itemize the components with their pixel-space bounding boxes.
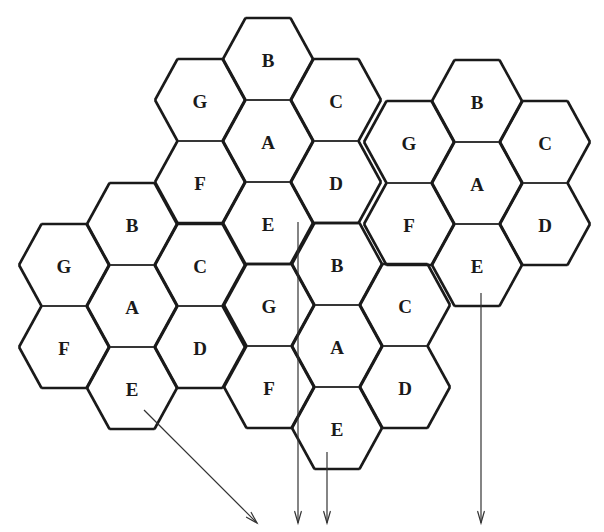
cluster-border-bottom <box>360 305 383 346</box>
arrow-shaft <box>144 410 257 523</box>
cluster-border-bottom <box>360 387 383 428</box>
cluster-border-bottom <box>360 223 383 264</box>
cluster-border-left <box>155 265 178 306</box>
cluster-border-right <box>432 224 455 265</box>
cluster-border-top <box>291 59 314 100</box>
cluster-border-top <box>359 100 382 141</box>
cluster-border-right <box>364 101 387 142</box>
cell-label-left-e: E <box>126 379 139 400</box>
cell-label-bottom-a: A <box>330 337 344 358</box>
cluster-border-bottom <box>428 387 451 428</box>
cell-label-right-e: E <box>471 256 484 277</box>
cluster-border-top <box>359 141 382 182</box>
cluster-border-bottom <box>360 428 383 469</box>
cell-label-left-b: B <box>126 215 139 236</box>
cluster-border-right <box>432 101 455 142</box>
cell-label-top-g: G <box>193 91 208 112</box>
cell-label-right-a: A <box>470 174 484 195</box>
cluster-border-right <box>568 101 591 142</box>
cell-label-left-f: F <box>58 338 70 359</box>
cluster-border-right <box>568 183 591 224</box>
cell-label-top-d: D <box>329 173 343 194</box>
cell-label-right-g: G <box>402 133 417 154</box>
cluster-border-left <box>87 347 110 388</box>
cluster-border-bottom <box>292 223 315 264</box>
cluster-border-bottom <box>360 264 383 305</box>
cluster-border-left <box>87 183 110 224</box>
cluster-border-top <box>359 182 382 223</box>
diagram-canvas: ABCDEFGABCDEFGABCDEFGABCDEFG <box>0 0 604 532</box>
cluster-border-right <box>432 265 455 306</box>
cluster-border-bottom <box>428 346 451 387</box>
cluster-border-top <box>223 18 246 59</box>
cluster-border-top <box>291 182 314 223</box>
cell-label-bottom-e: E <box>331 419 344 440</box>
cell-label-top-b: B <box>262 50 275 71</box>
cell-label-left-d: D <box>193 338 207 359</box>
cell-label-bottom-c: C <box>398 296 412 317</box>
cluster-border-right <box>364 183 387 224</box>
cluster-border-right <box>500 60 523 101</box>
cluster-border-left <box>19 265 42 306</box>
cluster-border-bottom <box>428 305 451 346</box>
cluster-border-left <box>155 306 178 347</box>
cluster-border-bottom <box>292 387 315 428</box>
cluster-border-left <box>19 306 42 347</box>
cluster-border-right <box>500 224 523 265</box>
cluster-border-top <box>155 59 178 100</box>
arrow-top-e <box>295 222 302 523</box>
cell-label-bottom-f: F <box>263 378 275 399</box>
cluster-border-right <box>364 224 387 265</box>
cluster-border-top <box>223 182 246 223</box>
cluster-border-top <box>223 59 246 100</box>
cluster-border-right <box>568 142 591 183</box>
cluster-border-left <box>19 224 42 265</box>
cluster-border-bottom <box>428 264 451 305</box>
cell-label-top-c: C <box>329 91 343 112</box>
hex-cluster-diagram: ABCDEFGABCDEFGABCDEFGABCDEFG <box>0 0 604 532</box>
cluster-border-left <box>19 347 42 388</box>
cluster-border-top <box>223 141 246 182</box>
cluster-border-right <box>432 183 455 224</box>
cluster-border-top <box>291 223 314 264</box>
cluster-border-right <box>500 101 523 142</box>
cluster-border-left <box>155 388 178 429</box>
cluster-border-left <box>87 388 110 429</box>
cluster-border-left <box>155 183 178 224</box>
cell-label-left-a: A <box>125 297 139 318</box>
cell-label-top-f: F <box>194 173 206 194</box>
cluster-border-bottom <box>292 428 315 469</box>
cluster-border-right <box>432 60 455 101</box>
cluster-border-top <box>291 18 314 59</box>
cluster-border-bottom <box>224 387 247 428</box>
cluster-border-bottom <box>224 264 247 305</box>
cluster-border-right <box>364 142 387 183</box>
cell-label-top-e: E <box>262 214 275 235</box>
cell-label-bottom-d: D <box>398 378 412 399</box>
cluster-border-right <box>432 142 455 183</box>
cell-label-right-f: F <box>403 215 415 236</box>
cluster-border-top <box>155 100 178 141</box>
arrow-left-e <box>144 410 257 523</box>
cluster-border-right <box>568 224 591 265</box>
cluster-border-top <box>359 59 382 100</box>
cell-label-right-b: B <box>471 92 484 113</box>
cluster-border-bottom <box>292 264 315 305</box>
cluster-border-bottom <box>292 305 315 346</box>
cell-label-left-c: C <box>193 256 207 277</box>
arrow-bottom-e <box>324 452 331 523</box>
cell-label-top-a: A <box>261 132 275 153</box>
cell-label-right-d: D <box>538 215 552 236</box>
cell-labels-layer: ABCDEFGABCDEFGABCDEFGABCDEFG <box>57 50 552 440</box>
cluster-border-left <box>87 224 110 265</box>
cell-label-bottom-g: G <box>262 296 277 317</box>
arrow-right-e <box>478 293 485 523</box>
cluster-border-top <box>155 141 178 182</box>
cluster-border-right <box>500 183 523 224</box>
cluster-border-bottom <box>224 346 247 387</box>
cluster-border-bottom <box>292 346 315 387</box>
cell-label-left-g: G <box>57 256 72 277</box>
cluster-border-bottom <box>224 305 247 346</box>
cluster-border-right <box>500 265 523 306</box>
cluster-border-bottom <box>360 346 383 387</box>
